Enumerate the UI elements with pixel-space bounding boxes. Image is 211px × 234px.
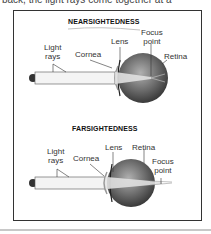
focus-point-line1: Focus [152, 157, 174, 166]
light-rays-line2: rays [47, 156, 64, 165]
focus-point-label: Focus point [152, 157, 174, 175]
bottom-divider [0, 229, 211, 231]
cornea-label: Cornea [75, 50, 101, 59]
retina-label: Retina [132, 143, 155, 152]
light-rays-label: Light rays [44, 43, 61, 61]
focus-point-line2: point [141, 37, 163, 46]
focus-point-line1: Focus [141, 28, 163, 37]
light-rays-line2: rays [44, 52, 61, 61]
cornea-label: Cornea [73, 154, 99, 163]
nearsightedness-title: NEARSIGHTEDNESS [68, 18, 140, 25]
lens-label: Lens [111, 37, 128, 46]
farsightedness-title: FARSIGHTEDNESS [72, 125, 138, 132]
focus-point-label: Focus point [141, 28, 163, 46]
light-rays-line1: Light [44, 43, 61, 52]
focus-point-line2: point [152, 166, 174, 175]
eye-diagrams [0, 0, 211, 234]
lens-label: Lens [105, 143, 122, 152]
retina-label: Retina [164, 52, 187, 61]
light-rays-label: Light rays [47, 147, 64, 165]
light-rays-line1: Light [47, 147, 64, 156]
